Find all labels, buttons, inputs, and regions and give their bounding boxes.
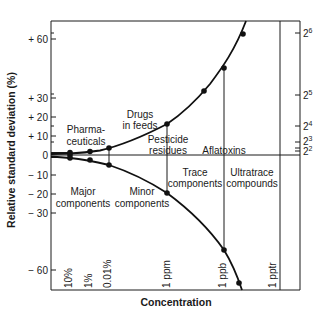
y-axis-left-ticks [51,33,56,270]
xtick-1ppm: 1 ppm [161,260,172,288]
ann-pesticide-1: Pesticide [148,134,189,145]
ann-drugs-2: in feeds [122,120,157,131]
ann-ultratrace-1: Ultratrace [230,167,274,178]
ann-trace-1: Trace [182,167,208,178]
ytick-m20: − 20 [28,189,48,200]
ytick-p10: + 10 [28,131,48,142]
ytick-p30: + 30 [28,93,48,104]
data-points [67,31,246,286]
ann-ultratrace-2: compounds [226,178,278,189]
ann-trace-2: components [168,178,222,189]
rtick-2e2: 22 [303,145,313,157]
ann-major-2: components [56,198,110,209]
rtick-2e4: 24 [303,120,313,132]
xtick-001pct: 0.01% [102,260,113,288]
ytick-m60: − 60 [28,265,48,276]
x-axis-labels: 10% 1% 0.01% 1 ppm 1 ppb 1 pptr [63,260,278,288]
ann-minor-1: Minor [129,186,155,197]
xtick-1pptr: 1 pptr [267,262,278,288]
ann-pesticide-2: residues [149,145,187,156]
ytick-zero: 0 [42,150,48,161]
ann-aflatoxins: Aflatoxins [202,145,245,156]
ytick-m30: − 30 [28,208,48,219]
y-axis-left-labels: + 60 + 30 + 20 + 10 0 − 10 − 20 − 30 − 6… [28,34,48,276]
ann-minor-2: components [115,198,169,209]
ytick-m10: − 10 [28,170,48,181]
y-axis-right-ticks [295,33,300,151]
y-axis-title: Relative standard deviation (%) [5,72,17,228]
lower-curve [51,157,242,291]
rtick-2e5: 25 [303,89,313,101]
horwitz-trumpet-chart: + 60 + 30 + 20 + 10 0 − 10 − 20 − 30 − 6… [0,0,328,320]
concentration-guides [109,68,224,250]
xtick-1ppb: 1 ppb [217,263,228,288]
ytick-p20: + 20 [28,112,48,123]
ytick-p60: + 60 [28,34,48,45]
ann-drugs-1: Drugs [127,109,154,120]
x-axis-title: Concentration [140,296,211,308]
ann-major-1: Major [70,186,96,197]
xtick-10pct: 10% [63,268,74,288]
y-axis-right-labels: 26 25 24 23 22 [303,27,313,157]
ann-pharma-1: Pharma- [67,124,105,135]
rtick-2e6: 26 [303,27,313,39]
ann-pharma-2: ceuticals [67,136,106,147]
xtick-1pct: 1% [83,273,94,288]
